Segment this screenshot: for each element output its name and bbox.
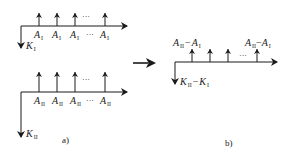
ellipsis: ··· — [86, 96, 94, 105]
panel-a-top-timeline: ··· AI AI AI ··· AI KI — [21, 12, 127, 52]
right-arrow-icon — [133, 58, 156, 68]
ellipsis: ··· — [82, 12, 90, 21]
difference-label-first: AII−AI — [172, 37, 201, 49]
arrow-label: AI — [99, 29, 109, 41]
arrow-label: AII — [69, 95, 81, 107]
arrow-label: AII — [51, 95, 63, 107]
investment-difference-label: KII−KI — [179, 76, 209, 88]
panel-b-caption: b) — [225, 138, 233, 148]
ellipsis: ··· — [239, 51, 247, 60]
panel-b-difference-timeline: ··· AII−AI AII−AI KII−KI b) — [172, 37, 277, 148]
arrow-label: AI — [33, 29, 43, 41]
panel-a-bottom-timeline: ··· AII AII AII ··· AII KII a) — [21, 72, 127, 145]
panel-a-caption: a) — [62, 135, 69, 145]
arrow-label: AII — [99, 95, 111, 107]
arrow-label: AI — [69, 29, 79, 41]
investment-label: KI — [25, 40, 36, 52]
investment-label: KII — [25, 128, 38, 140]
arrow-label: AI — [51, 29, 61, 41]
ellipsis: ··· — [82, 75, 90, 84]
difference-label-last: AII−AI — [244, 37, 271, 49]
arrow-label: AII — [33, 95, 45, 107]
ellipsis: ··· — [86, 30, 94, 39]
cash-flow-diagram: ··· AI AI AI ··· AI KI ··· AII AII AII ·… — [0, 0, 290, 157]
